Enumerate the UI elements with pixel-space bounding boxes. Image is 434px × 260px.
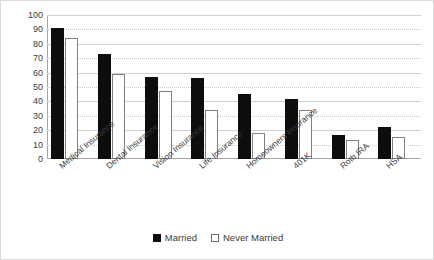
x-axis-category-labels: Medical InsuranceDental InsuranceVision … xyxy=(47,161,421,223)
y-axis-tick-label: 40 xyxy=(13,97,43,106)
legend-label: Never Married xyxy=(223,233,283,243)
bar-married xyxy=(145,77,158,159)
x-axis-label-cell: Homeowners Insurance xyxy=(234,161,281,223)
bar-married xyxy=(191,78,204,159)
y-axis-tick-label: 80 xyxy=(13,39,43,48)
x-axis-label-cell: HSA xyxy=(374,161,421,223)
y-axis-tick-label: 70 xyxy=(13,54,43,63)
y-axis-tick-label: 50 xyxy=(13,83,43,92)
bar-group xyxy=(328,15,375,159)
x-axis-label-cell: Vision Insurance xyxy=(141,161,188,223)
legend-item: Never Married xyxy=(211,233,283,243)
y-axis-tick-label: 60 xyxy=(13,68,43,77)
bar-married xyxy=(51,28,64,159)
y-axis-tick-label: 90 xyxy=(13,25,43,34)
hollow-square-icon xyxy=(211,234,219,242)
y-axis-tick-label: 100 xyxy=(13,11,43,20)
bar-married xyxy=(378,127,391,159)
filled-square-icon xyxy=(153,234,161,242)
y-axis-tick-label: 10 xyxy=(13,140,43,149)
x-axis-label-cell: 401K xyxy=(281,161,328,223)
bar-married xyxy=(238,94,251,159)
bar-married xyxy=(332,135,345,159)
x-axis-label-cell: Roth IRA xyxy=(328,161,375,223)
chart-legend: MarriedNever Married xyxy=(1,233,434,243)
bar-group xyxy=(374,15,421,159)
y-axis-tick-labels: 1009080706050403020100 xyxy=(13,15,43,159)
y-axis-tick-label: 30 xyxy=(13,111,43,120)
y-axis-tick-label: 20 xyxy=(13,126,43,135)
legend-item: Married xyxy=(153,233,197,243)
x-axis-label-cell: Life Insurance xyxy=(187,161,234,223)
y-axis-tick-label: 0 xyxy=(13,155,43,164)
x-axis-label-cell: Medical Insurance xyxy=(47,161,94,223)
bar-never-married xyxy=(65,38,78,159)
legend-label: Married xyxy=(165,233,197,243)
plot-area: 1009080706050403020100 Medical Insurance… xyxy=(1,1,434,260)
bar-chart-figure: 1009080706050403020100 Medical Insurance… xyxy=(0,0,434,260)
x-axis-label-cell: Dental Insurance xyxy=(94,161,141,223)
bar-married xyxy=(98,54,111,159)
